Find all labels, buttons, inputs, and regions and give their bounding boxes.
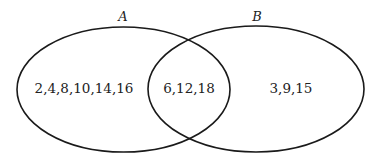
set-a-label: A	[117, 9, 127, 24]
set-a-only-elements: 2,4,8,10,14,16	[35, 80, 134, 96]
set-b-label: B	[251, 9, 262, 24]
venn-svg: A B 2,4,8,10,14,16 6,12,18 3,9,15	[0, 0, 379, 162]
set-b-only-elements: 3,9,15	[270, 80, 313, 96]
intersection-elements: 6,12,18	[163, 80, 215, 96]
venn-diagram: A B 2,4,8,10,14,16 6,12,18 3,9,15	[0, 0, 379, 162]
